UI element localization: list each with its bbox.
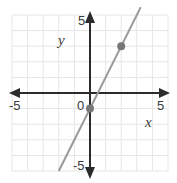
x-min-label: -5 [9,98,21,113]
x-axis-left-arrow-icon [9,88,20,98]
axes [9,11,170,179]
y-axis-down-arrow-icon [85,167,95,179]
y-max-label: 5 [78,13,85,28]
y-axis-label: y [56,32,65,48]
x-max-label: 5 [157,98,164,113]
x-axis-label: x [144,114,152,130]
y-axis-up-arrow-icon [85,11,95,23]
data-point [117,42,125,50]
y-min-label: -5 [73,158,85,173]
origin-label: 0 [77,98,84,113]
coordinate-plane: -5 5 5 -5 0 x y [0,0,177,183]
data-point [86,105,94,113]
function-line [59,7,141,171]
